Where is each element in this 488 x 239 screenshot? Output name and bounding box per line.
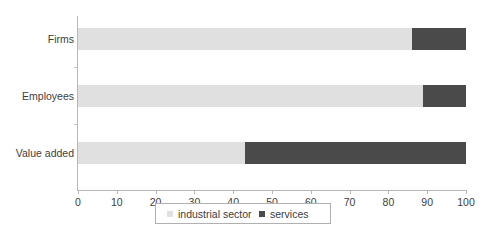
x-axis-tick-label: 10 — [97, 196, 137, 209]
x-axis-tick — [117, 190, 118, 194]
stacked-bar-chart: Firms Employees Value added 010203040506… — [0, 0, 488, 239]
x-axis-tick — [388, 190, 389, 194]
y-axis-label-value-added: Value added — [16, 147, 74, 159]
x-axis-tick-label: 80 — [368, 196, 408, 209]
x-axis-tick-label: 0 — [58, 196, 98, 209]
y-axis-tick — [74, 124, 78, 125]
y-axis-label-employees: Employees — [22, 90, 74, 102]
legend-label: industrial sector — [178, 208, 252, 220]
legend-label: services — [270, 208, 309, 220]
x-axis-tick — [466, 190, 467, 194]
legend-swatch-icon — [167, 211, 173, 217]
legend-swatch-icon — [259, 211, 265, 217]
bar-segment-firms-services — [412, 28, 466, 50]
x-axis-tick-label: 70 — [330, 196, 370, 209]
bar-segment-firms-industrial — [78, 28, 412, 50]
legend-item-services: services — [259, 207, 309, 221]
x-axis-tick — [350, 190, 351, 194]
bar-segment-employees-industrial — [78, 85, 423, 107]
chart-legend: industrial sector services — [155, 203, 331, 224]
x-axis-tick — [194, 190, 195, 194]
x-axis-tick-label: 90 — [407, 196, 447, 209]
x-axis-tick — [427, 190, 428, 194]
legend-item-industrial-sector: industrial sector — [167, 207, 252, 221]
y-axis-label-firms: Firms — [48, 33, 74, 45]
plot-area: 0102030405060708090100 — [78, 16, 466, 190]
y-axis-tick — [74, 67, 78, 68]
x-axis-tick — [233, 190, 234, 194]
x-axis-tick — [78, 190, 79, 194]
x-axis-tick — [272, 190, 273, 194]
x-axis-tick — [311, 190, 312, 194]
x-axis-tick-label: 100 — [446, 196, 486, 209]
bar-segment-value-added-services — [245, 142, 466, 164]
bar-segment-employees-services — [423, 85, 466, 107]
bar-segment-value-added-industrial — [78, 142, 245, 164]
x-axis-tick — [156, 190, 157, 194]
